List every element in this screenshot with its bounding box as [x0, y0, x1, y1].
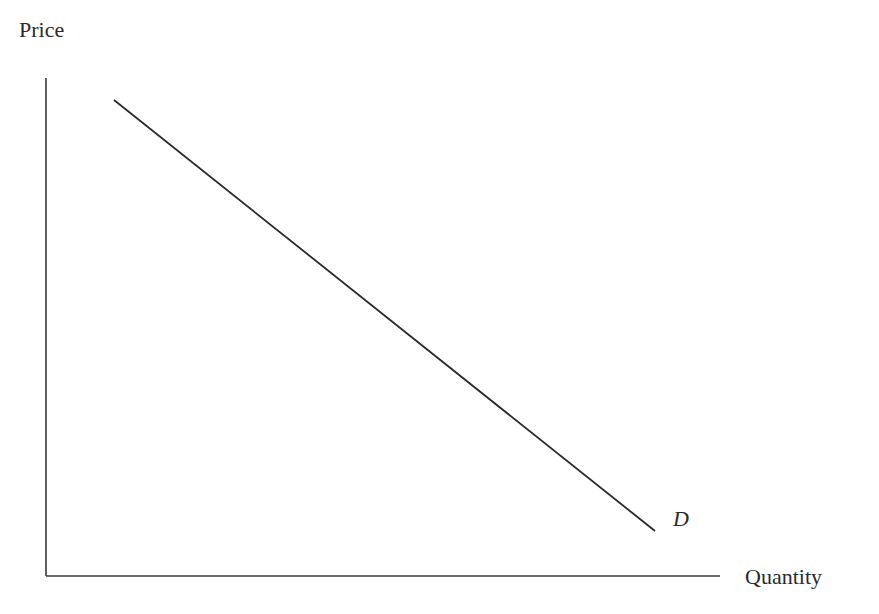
y-axis-label: Price	[19, 19, 64, 41]
chart-canvas	[0, 0, 879, 614]
x-axis-label: Quantity	[745, 566, 822, 588]
demand-curve-label: D	[673, 508, 689, 530]
demand-curve-line	[114, 100, 655, 531]
